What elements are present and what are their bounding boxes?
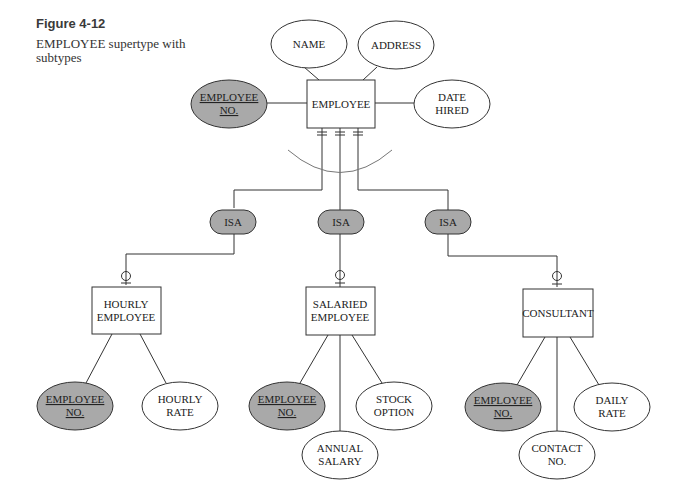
svg-text:NO.: NO.: [220, 104, 239, 116]
attr-address: ADDRESS: [358, 21, 434, 69]
svg-text:NO.: NO.: [66, 406, 85, 418]
isa-hourly: ISA: [210, 210, 256, 234]
salaried-attr-employee-no-key: EMPLOYEE NO.: [249, 382, 325, 430]
svg-text:NO.: NO.: [494, 407, 513, 419]
svg-text:RATE: RATE: [166, 406, 194, 418]
isa-salaried: ISA: [318, 210, 364, 234]
svg-text:EMPLOYEE: EMPLOYEE: [200, 91, 259, 103]
svg-text:ISA: ISA: [332, 216, 350, 228]
svg-text:OPTION: OPTION: [374, 406, 414, 418]
attr-name: NAME: [271, 20, 347, 68]
svg-text:ADDRESS: ADDRESS: [371, 39, 421, 51]
svg-text:CONSULTANT: CONSULTANT: [522, 307, 594, 319]
hourly-attr-hourly-rate: HOURLY RATE: [142, 382, 218, 430]
svg-text:HIRED: HIRED: [435, 104, 469, 116]
attr-date-hired: DATE HIRED: [414, 80, 490, 128]
svg-text:STOCK: STOCK: [376, 393, 412, 405]
svg-text:EMPLOYEE: EMPLOYEE: [258, 393, 317, 405]
svg-text:CONTACT: CONTACT: [531, 442, 582, 454]
svg-text:SALARIED: SALARIED: [313, 298, 367, 310]
svg-text:HOURLY: HOURLY: [158, 393, 203, 405]
salaried-attr-annual-salary: ANNUAL SALARY: [302, 431, 378, 479]
svg-text:ISA: ISA: [439, 216, 457, 228]
svg-text:EMPLOYEE: EMPLOYEE: [311, 311, 370, 323]
svg-text:NO.: NO.: [278, 406, 297, 418]
svg-text:ISA: ISA: [224, 216, 242, 228]
entity-hourly-employee: HOURLY EMPLOYEE: [92, 287, 161, 334]
svg-text:EMPLOYEE: EMPLOYEE: [312, 98, 371, 110]
er-diagram: NAME ADDRESS EMPLOYEE NO. DATE HIRED EMP…: [0, 0, 686, 490]
salaried-attr-stock-option: STOCK OPTION: [356, 382, 432, 430]
svg-text:RATE: RATE: [598, 407, 626, 419]
entity-employee: EMPLOYEE: [307, 80, 375, 128]
entity-consultant: CONSULTANT: [522, 289, 594, 337]
entity-salaried-employee: SALARIED EMPLOYEE: [306, 287, 375, 335]
svg-text:EMPLOYEE: EMPLOYEE: [474, 394, 533, 406]
svg-text:EMPLOYEE: EMPLOYEE: [97, 311, 156, 323]
svg-text:EMPLOYEE: EMPLOYEE: [46, 393, 105, 405]
isa-consultant: ISA: [425, 210, 471, 234]
consultant-attr-employee-no-key: EMPLOYEE NO.: [465, 383, 541, 431]
attr-employee-no-key: EMPLOYEE NO.: [191, 80, 267, 128]
svg-text:DAILY: DAILY: [595, 394, 628, 406]
svg-text:HOURLY: HOURLY: [104, 298, 149, 310]
svg-text:ANNUAL: ANNUAL: [317, 442, 364, 454]
svg-text:NAME: NAME: [293, 38, 326, 50]
hourly-attr-employee-no-key: EMPLOYEE NO.: [37, 382, 113, 430]
consultant-attr-daily-rate: DAILY RATE: [574, 383, 650, 431]
svg-text:DATE: DATE: [438, 91, 466, 103]
svg-text:SALARY: SALARY: [318, 455, 361, 467]
consultant-attr-contact-no: CONTACT NO.: [519, 431, 595, 479]
svg-text:NO.: NO.: [548, 455, 567, 467]
